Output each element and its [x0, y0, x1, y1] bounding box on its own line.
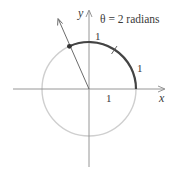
arc-label-2: 1	[137, 62, 143, 74]
arc-theta	[69, 42, 136, 89]
terminal-point	[67, 44, 72, 49]
diagram-title: θ = 2 radians	[100, 13, 160, 25]
arc-label-1: 1	[95, 30, 101, 42]
y-axis-label: y	[77, 6, 84, 20]
terminal-ray	[59, 20, 90, 90]
x-axis-label: x	[158, 91, 165, 105]
unit-label-x: 1	[106, 92, 112, 104]
unit-circle-diagram: y θ = 2 radians 1 1 1 x	[0, 0, 185, 177]
ray-arrow-icon	[58, 19, 63, 26]
